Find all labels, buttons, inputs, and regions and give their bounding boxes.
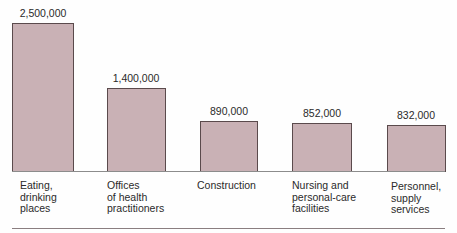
bottom-divider — [12, 228, 445, 229]
bar-health-practitioners — [107, 88, 166, 172]
value-label: 2,500,000 — [0, 7, 88, 19]
category-label: Personnel, supply services — [391, 181, 441, 216]
value-label: 832,000 — [371, 109, 457, 121]
value-label: 852,000 — [277, 107, 367, 119]
bar-nursing-care — [292, 123, 352, 172]
value-label: 890,000 — [184, 105, 274, 117]
x-axis-baseline — [12, 171, 445, 172]
bar-construction — [200, 121, 258, 172]
category-label: Offices of health practitioners — [107, 180, 164, 215]
bar-personnel-supply — [387, 125, 446, 172]
category-label: Nursing and personal-care facilities — [292, 180, 356, 215]
category-label: Construction — [197, 180, 256, 192]
bar-eating-drinking — [12, 23, 74, 172]
category-label: Eating, drinking places — [20, 180, 57, 215]
value-label: 1,400,000 — [91, 72, 181, 84]
